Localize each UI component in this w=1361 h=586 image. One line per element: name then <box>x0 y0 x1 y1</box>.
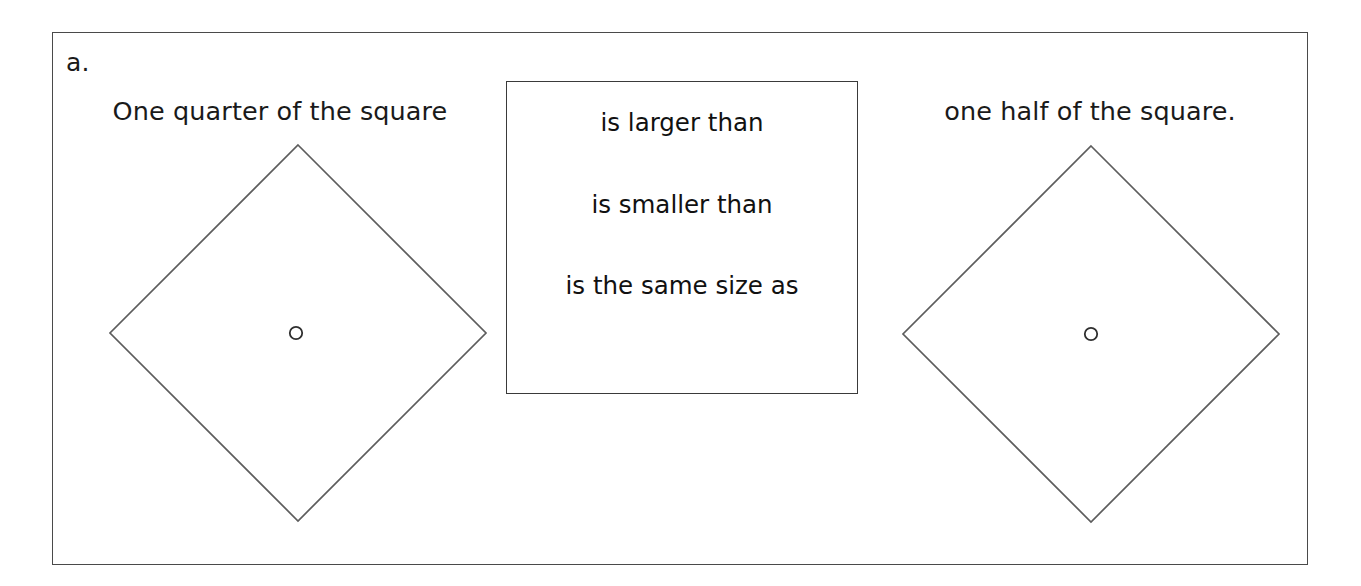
right-phrase-label: one half of the square. <box>860 99 1320 125</box>
left-diamond-outline <box>110 145 486 521</box>
choice-option-is-larger-than[interactable]: is larger than <box>507 111 857 136</box>
choice-option-is-the-same-size-as[interactable]: is the same size as <box>507 274 857 299</box>
choice-option-is-smaller-than[interactable]: is smaller than <box>507 193 857 218</box>
right-diamond-outline <box>903 146 1279 522</box>
left-diamond-figure <box>110 145 486 521</box>
left-phrase-label: One quarter of the square <box>0 99 560 125</box>
right-diamond-figure <box>903 146 1279 522</box>
comparison-choice-box: is larger than is smaller than is the sa… <box>506 81 858 394</box>
item-letter: a. <box>66 50 90 75</box>
